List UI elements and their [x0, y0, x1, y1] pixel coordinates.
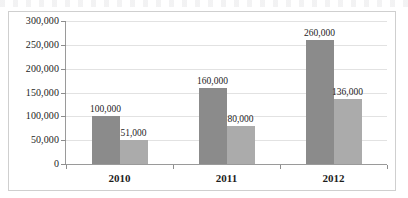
bar-2012-series1[interactable]: [306, 40, 334, 164]
y-axis-tick-label: 300,000: [0, 16, 59, 26]
y-axis-tick-label: 250,000: [0, 40, 59, 50]
bar-label-2012-series1: 260,000: [288, 28, 352, 38]
bar-2012-series2[interactable]: [334, 99, 362, 164]
scan-artifact-band: [0, 0, 408, 7]
x-tick-mark: [387, 165, 388, 169]
x-axis-label-2012: 2012: [289, 172, 379, 184]
bar-label-2010-series1: 100,000: [74, 104, 138, 114]
x-axis-label-2011: 2011: [182, 172, 272, 184]
bar-label-2012-series2: 136,000: [316, 87, 380, 97]
bar-label-2011-series2: 80,000: [209, 114, 273, 124]
y-axis-tick-label: 0: [0, 159, 59, 169]
chart-frame: 050,000100,000150,000200,000250,000300,0…: [8, 11, 396, 191]
y-axis-tick-label: 200,000: [0, 64, 59, 74]
bar-label-2010-series2: 51,000: [102, 128, 166, 138]
bar-2010-series1[interactable]: [92, 116, 120, 164]
y-axis-tick-label: 150,000: [0, 88, 59, 98]
x-axis-line: [65, 164, 387, 165]
y-axis-tick-label: 100,000: [0, 111, 59, 121]
x-axis-label-2010: 2010: [75, 172, 165, 184]
x-tick-mark: [173, 165, 174, 169]
bar-2011-series2[interactable]: [227, 126, 255, 164]
x-tick-mark: [66, 165, 67, 169]
bar-label-2011-series1: 160,000: [181, 76, 245, 86]
x-tick-mark: [280, 165, 281, 169]
bar-2011-series1[interactable]: [199, 88, 227, 164]
bar-2010-series2[interactable]: [120, 140, 148, 164]
y-axis-tick-label: 50,000: [0, 135, 59, 145]
